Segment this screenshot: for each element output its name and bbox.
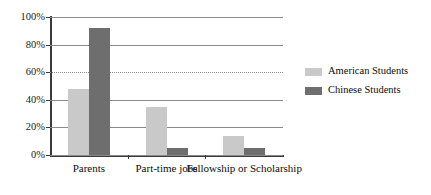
y-axis-label-60%: 60%	[26, 67, 45, 78]
y-axis-label-20%: 20%	[26, 122, 45, 133]
gridline-0%	[50, 155, 283, 156]
y-tick-60%	[46, 72, 50, 73]
legend-label-american-students: American Students	[328, 66, 408, 77]
bar-fellowship-or-scholarship-american-students	[223, 136, 244, 155]
x-tick-1	[128, 155, 129, 159]
gridline-100%	[50, 17, 283, 18]
x-tick-2	[205, 155, 206, 159]
legend-item-american-students[interactable]: American Students	[305, 62, 408, 81]
plot-area: 0%20%40%60%80%100%	[50, 17, 283, 155]
y-tick-20%	[46, 127, 50, 128]
bar-part-time-jobs-chinese-students	[167, 148, 188, 155]
bar-fellowship-or-scholarship-chinese-students	[244, 148, 265, 155]
y-axis-label-100%: 100%	[21, 12, 46, 23]
legend-item-chinese-students[interactable]: Chinese Students	[305, 81, 408, 100]
y-tick-80%	[46, 45, 50, 46]
bar-parents-american-students	[68, 89, 89, 155]
y-tick-0%	[46, 155, 50, 156]
y-axis-label-0%: 0%	[31, 150, 45, 161]
y-tick-100%	[46, 17, 50, 18]
y-axis-label-80%: 80%	[26, 39, 45, 50]
legend-label-chinese-students: Chinese Students	[328, 85, 401, 96]
bar-part-time-jobs-american-students	[146, 107, 167, 155]
y-tick-40%	[46, 100, 50, 101]
category-label-fellowship-or-scholarship: Fellowship or Scholarship	[186, 162, 302, 174]
bar-parents-chinese-students	[89, 28, 110, 155]
legend-swatch-icon-american-students	[305, 68, 322, 76]
legend-swatch-icon-chinese-students	[305, 87, 322, 95]
y-axis-label-40%: 40%	[26, 95, 45, 106]
gridline-80%	[50, 45, 283, 46]
legend: American Students Chinese Students	[305, 62, 408, 100]
category-label-parents: Parents	[73, 162, 105, 174]
bar-chart-screenshot: 0%20%40%60%80%100% ParentsPart-time jobs…	[0, 0, 431, 195]
gridline-60%	[50, 72, 283, 73]
